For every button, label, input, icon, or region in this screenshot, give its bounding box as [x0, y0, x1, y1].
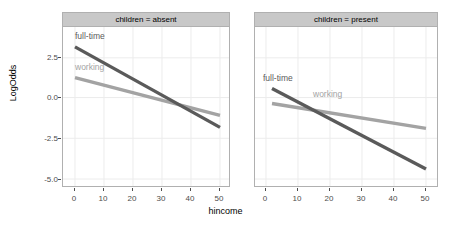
series-label-working-absent: working: [75, 62, 104, 72]
x-tick-label-0: 0: [72, 194, 76, 203]
line-fulltime-absent: [75, 47, 220, 127]
plot-area-absent: [63, 27, 229, 186]
y-tick-mark-3: [58, 179, 61, 180]
x-tick-label-4: 40: [186, 194, 195, 203]
x-tick-label-r0: 0: [263, 194, 267, 203]
y-tick-mark-0: [58, 57, 61, 58]
y-tick-label-3: -5.0: [44, 175, 58, 184]
x-axis-label: hincome: [0, 206, 451, 216]
x-tick-label-r3: 30: [357, 194, 366, 203]
x-tick-mark-5: [219, 188, 220, 191]
x-tick-mark-r1: [297, 188, 298, 191]
x-tick-label-5: 50: [215, 194, 224, 203]
x-tick-mark-r5: [425, 188, 426, 191]
y-tick-mark-2: [58, 138, 61, 139]
x-tick-mark-r3: [361, 188, 362, 191]
y-tick-mark-1: [58, 97, 61, 98]
gridlines-absent: [63, 27, 229, 186]
panel-children-present: children = present full-ti: [254, 12, 438, 187]
plot-svg-absent: [63, 27, 229, 186]
x-tick-mark-4: [190, 188, 191, 191]
x-tick-mark-1: [103, 188, 104, 191]
x-tick-label-r4: 40: [389, 194, 398, 203]
x-tick-label-3: 30: [157, 194, 166, 203]
series-label-fulltime-absent: full-time: [75, 31, 105, 41]
series-label-fulltime-present: full-time: [263, 73, 293, 83]
y-tick-label-1: 0.0: [47, 93, 58, 102]
strip-label-present: children = present: [255, 13, 437, 27]
x-tick-mark-r2: [329, 188, 330, 191]
y-tick-label-2: -2.5: [44, 134, 58, 143]
x-tick-label-1: 10: [99, 194, 108, 203]
x-tick-label-r2: 20: [325, 194, 334, 203]
line-working-absent: [75, 78, 220, 116]
x-tick-mark-3: [161, 188, 162, 191]
x-tick-mark-r4: [393, 188, 394, 191]
chart-root: LogOdds 2.5 0.0 -2.5 -5.0 children = abs…: [0, 0, 451, 225]
series-label-working-present: working: [313, 89, 342, 99]
y-axis-ticks: 2.5 0.0 -2.5 -5.0: [18, 0, 58, 225]
line-working-present: [272, 104, 426, 129]
x-tick-mark-2: [132, 188, 133, 191]
y-tick-label-0: 2.5: [47, 53, 58, 62]
strip-label-absent: children = absent: [63, 13, 229, 27]
x-tick-label-2: 20: [128, 194, 137, 203]
x-tick-label-r5: 50: [421, 194, 430, 203]
y-axis-label: LogOdds: [8, 48, 18, 118]
x-axis-ticks-present: 0 10 20 30 40 50: [254, 188, 438, 206]
panel-children-absent: children = absent full-tim: [62, 12, 230, 187]
line-fulltime-present: [272, 89, 426, 169]
x-tick-label-r1: 10: [293, 194, 302, 203]
x-tick-mark-r0: [265, 188, 266, 191]
plot-svg-present: [255, 27, 437, 186]
x-tick-mark-0: [74, 188, 75, 191]
plot-area-present: [255, 27, 437, 186]
x-axis-ticks-absent: 0 10 20 30 40 50: [62, 188, 230, 206]
